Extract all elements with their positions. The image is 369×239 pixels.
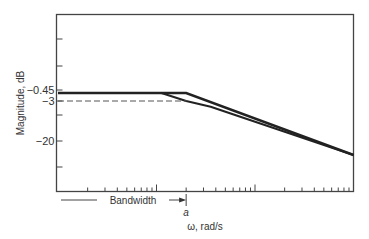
bandwidth-annotation: Bandwidth — [61, 194, 186, 206]
y-tick-label: −20 — [36, 135, 55, 147]
plot-border — [57, 15, 354, 192]
series-layer — [58, 93, 354, 155]
bandwidth-arrowhead — [179, 198, 186, 203]
x-axis-ticks — [88, 185, 354, 192]
corner-frequency-label: a — [183, 207, 189, 218]
bode-magnitude-chart: −0.45−3−20 Magnitude, dB Bandwidth a ω, … — [0, 0, 369, 239]
y-tick-label: −3 — [42, 95, 55, 107]
series-line-actual-response — [58, 93, 354, 155]
plot-frame — [57, 15, 354, 192]
x-axis-title: ω, rad/s — [187, 221, 223, 232]
y-axis-title: Magnitude, dB — [15, 70, 26, 135]
bandwidth-label: Bandwidth — [110, 195, 157, 206]
series-line-asymptote — [58, 93, 354, 155]
